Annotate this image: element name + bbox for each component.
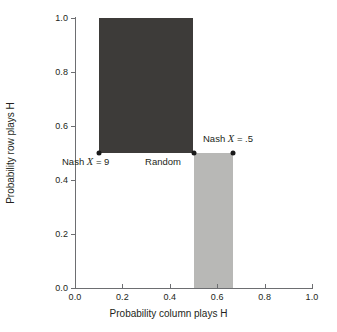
x-tick-5 (312, 284, 313, 288)
x-tick-1 (122, 284, 123, 288)
y-tick-0 (71, 288, 75, 289)
nash-x-9-suffix: = 9 (93, 156, 109, 167)
x-tick-label-5: 1.0 (306, 292, 319, 302)
x-tick-0 (75, 284, 76, 288)
y-tick-label-2: 0.4 (55, 175, 68, 185)
y-tick-label-3: 0.6 (55, 121, 68, 131)
y-tick-5 (71, 18, 75, 19)
y-tick-label-1: 0.2 (55, 229, 68, 239)
y-tick-4 (71, 72, 75, 73)
light-region-rect (194, 153, 234, 288)
y-axis-label: Probability row plays H (5, 102, 16, 204)
nash-x-half-suffix: = .5 (234, 133, 253, 144)
nash-x-half-prefix: Nash (203, 133, 228, 144)
x-tick-label-0: 0.0 (69, 292, 82, 302)
x-tick-label-3: 0.6 (211, 292, 224, 302)
x-tick-2 (170, 284, 171, 288)
nash-x-9-prefix: Nash (62, 156, 87, 167)
plot-area (75, 18, 312, 288)
y-tick-3 (71, 126, 75, 127)
random-annotation: Random (145, 156, 181, 167)
cropped-caption (8, 326, 328, 330)
y-tick-2 (71, 180, 75, 181)
chart-figure: 0.0 0.2 0.4 0.6 0.8 1.0 0.0 0.2 0.4 0.6 … (0, 0, 337, 332)
x-tick-3 (217, 284, 218, 288)
y-tick-label-4: 0.8 (55, 67, 68, 77)
nash-x-half-point (231, 151, 236, 156)
x-tick-4 (265, 284, 266, 288)
y-tick-1 (71, 234, 75, 235)
x-tick-label-4: 0.8 (258, 292, 271, 302)
x-tick-label-2: 0.4 (163, 292, 176, 302)
y-axis-line (75, 17, 76, 289)
dark-region-rect (99, 18, 194, 153)
x-axis-label: Probability column plays H (0, 308, 337, 319)
nash-x-9-annotation: Nash X = 9 (62, 156, 109, 167)
y-tick-label-0: 0.0 (55, 283, 68, 293)
y-tick-label-5: 1.0 (55, 13, 68, 23)
random-point (191, 151, 196, 156)
nash-x-half-annotation: Nash X = .5 (203, 133, 253, 144)
x-axis-line (75, 288, 313, 289)
x-tick-label-1: 0.2 (116, 292, 129, 302)
nash-x-9-point (96, 151, 101, 156)
